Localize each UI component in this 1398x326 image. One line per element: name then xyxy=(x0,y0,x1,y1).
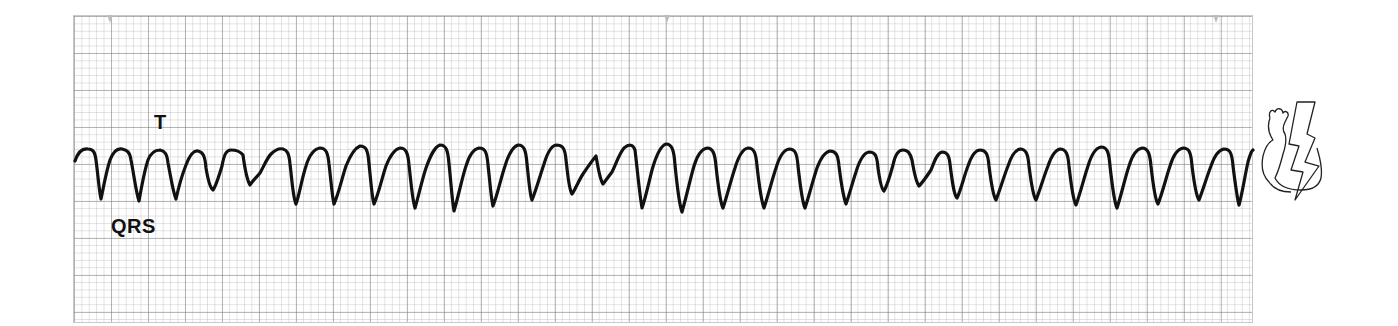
t-wave-label: T xyxy=(154,111,167,134)
ecg-trace xyxy=(75,144,1253,212)
qrs-complex-label: QRS xyxy=(111,215,156,238)
ecg-waveform xyxy=(0,0,1398,326)
heart-outline-icon xyxy=(1262,109,1321,192)
lightning-bolt-icon xyxy=(1289,102,1319,200)
heart-with-lightning-icon xyxy=(1255,100,1345,220)
